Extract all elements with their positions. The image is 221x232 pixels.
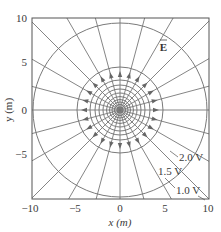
plot-area [0, 0, 221, 232]
x-tick-5: 5 [162, 202, 168, 214]
arrowhead-icon [82, 116, 88, 120]
arrowhead-icon [151, 116, 157, 120]
arrowhead-icon [126, 141, 130, 147]
leader-2v [170, 151, 178, 157]
arrowhead-icon [82, 99, 88, 103]
arrowhead-icon [109, 141, 113, 147]
field-line [68, 0, 120, 110]
arrowhead-icon [147, 125, 153, 130]
arrowhead-icon [147, 91, 153, 96]
y-tick-10: 10 [16, 12, 28, 24]
field-label: E [160, 41, 167, 53]
x-tick-10: 10 [203, 202, 215, 214]
arrowhead-icon [126, 72, 130, 78]
arrowhead-icon [81, 108, 87, 112]
y-axis-label: y (m) [2, 98, 15, 122]
y-tick-5: 5 [22, 56, 28, 68]
field-line [0, 58, 120, 110]
label-1-5v: 1.5 V [158, 165, 182, 177]
arrowhead-icon [101, 137, 106, 143]
arrowhead-icon [86, 91, 92, 96]
arrowhead-icon [151, 99, 157, 103]
y-tick-minus5: −5 [15, 148, 27, 160]
arrowhead-icon [135, 137, 140, 143]
arrowhead-icon [101, 76, 106, 82]
arrowhead-icon [109, 72, 113, 78]
x-tick-minus10: −10 [21, 202, 39, 214]
x-axis-label: x (m) [108, 216, 132, 229]
label-2v: 2.0 V [179, 151, 203, 163]
x-tick-0: 0 [117, 202, 123, 214]
field-line [0, 110, 120, 232]
x-tick-minus5: −5 [69, 202, 81, 214]
arrowhead-icon [86, 125, 92, 130]
arrowhead-icon [135, 76, 140, 82]
arrowhead-icon [118, 143, 122, 149]
field-diagram: 10 5 0 −5 −10 −5 0 5 10 x (m) y (m) E 2.… [0, 0, 221, 232]
label-1v: 1.0 V [176, 184, 200, 196]
arrowhead-icon [118, 71, 122, 77]
arrowhead-icon [153, 108, 159, 112]
field-line [120, 0, 172, 110]
y-tick-0: 0 [22, 104, 28, 116]
